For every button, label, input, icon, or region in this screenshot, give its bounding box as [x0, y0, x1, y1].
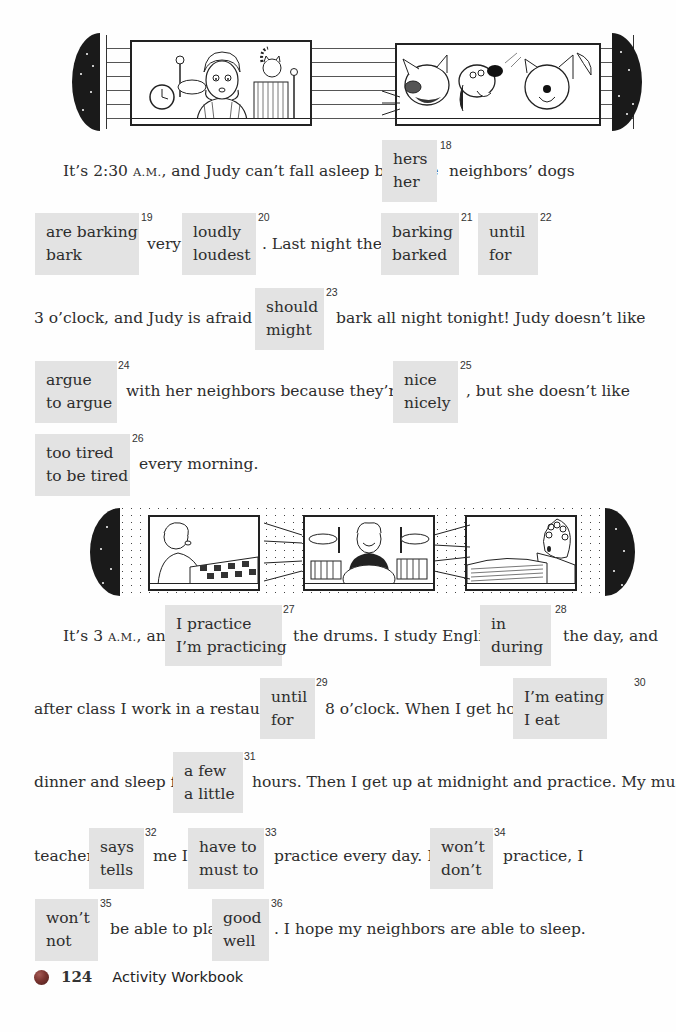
- choice-19-option-2[interactable]: bark: [46, 244, 139, 267]
- choice-36-option-1[interactable]: good: [223, 907, 269, 930]
- choice-25[interactable]: nice nicely: [393, 361, 458, 423]
- choice-35[interactable]: won’t not: [35, 899, 98, 961]
- choice-32-option-1[interactable]: says: [100, 836, 144, 859]
- choice-35-option-1[interactable]: won’t: [46, 907, 98, 930]
- item-number-19: 19: [141, 211, 153, 223]
- choice-24-option-1[interactable]: argue: [46, 369, 117, 392]
- p2-line2-middle: 8 o’clock. When I get home,: [325, 700, 544, 718]
- p2-line1-middle: the drums. I study English: [293, 627, 501, 645]
- item-number-23: 23: [326, 286, 338, 298]
- item-number-20: 20: [258, 211, 270, 223]
- item-number-29: 29: [316, 676, 328, 688]
- choice-19-option-1[interactable]: are barking: [46, 221, 139, 244]
- illustration-top: [72, 33, 642, 131]
- choice-26-option-2[interactable]: to be tired: [46, 465, 130, 488]
- choice-27-option-1[interactable]: I practice: [176, 613, 282, 636]
- night-sky-left-2: [90, 508, 120, 596]
- choice-19[interactable]: are barking bark: [35, 213, 139, 275]
- item-number-30: 30: [634, 676, 646, 688]
- choice-28-option-2[interactable]: during: [491, 636, 551, 659]
- choice-30-option-1[interactable]: I’m eating: [524, 686, 607, 709]
- choice-25-option-1[interactable]: nice: [404, 369, 458, 392]
- p2-line5-after: . I hope my neighbors are able to sleep.: [274, 920, 586, 938]
- item-number-31: 31: [244, 750, 256, 762]
- choice-26[interactable]: too tired to be tired: [35, 434, 130, 496]
- choice-34[interactable]: won’t don’t: [430, 828, 493, 889]
- choice-24[interactable]: argue to argue: [35, 361, 117, 423]
- p2-line4-after: practice, I: [503, 847, 583, 865]
- choice-26-option-1[interactable]: too tired: [46, 442, 130, 465]
- choice-24-option-2[interactable]: to argue: [46, 392, 117, 415]
- choice-23[interactable]: should might: [255, 288, 324, 350]
- item-number-22: 22: [540, 211, 552, 223]
- item-number-27: 27: [283, 603, 295, 615]
- choice-20-option-1[interactable]: loudly: [193, 221, 256, 244]
- choice-33-option-1[interactable]: have to: [199, 836, 264, 859]
- choice-31[interactable]: a few a little: [173, 752, 243, 813]
- illustration-middle: [90, 503, 635, 598]
- choice-31-option-1[interactable]: a few: [184, 760, 243, 783]
- choice-25-option-2[interactable]: nicely: [404, 392, 458, 415]
- page-footer: 124 Activity Workbook: [34, 966, 243, 988]
- item-number-36: 36: [271, 897, 283, 909]
- choice-30-option-2[interactable]: I eat: [524, 709, 607, 732]
- p1-line1-after: neighbors’ dogs: [449, 162, 575, 180]
- choice-28[interactable]: in during: [480, 605, 551, 666]
- page-number: 124: [61, 968, 92, 986]
- sleeping-neighbor-window: [465, 515, 577, 591]
- choice-21-option-1[interactable]: barking: [392, 221, 459, 244]
- night-sky-right: [612, 33, 642, 131]
- item-number-26: 26: [132, 432, 144, 444]
- choice-27[interactable]: I practice I’m practicing: [165, 605, 282, 666]
- p1-line2-last-night: . Last night they: [262, 235, 391, 253]
- p2-line5-middle: be able to play: [110, 920, 226, 938]
- p2-line4-before: teacher: [34, 847, 94, 865]
- judy-window: [130, 40, 312, 126]
- choice-23-option-2[interactable]: might: [266, 319, 324, 342]
- item-number-32: 32: [145, 826, 157, 838]
- choice-29[interactable]: until for: [260, 678, 315, 739]
- choice-22-option-2[interactable]: for: [489, 244, 538, 267]
- choice-32[interactable]: says tells: [89, 828, 144, 889]
- choice-36[interactable]: good well: [212, 899, 269, 961]
- choice-34-option-1[interactable]: won’t: [441, 836, 493, 859]
- item-number-28: 28: [555, 603, 567, 615]
- p2-line4-middle1: me I: [153, 847, 188, 865]
- choice-30[interactable]: I’m eating I eat: [513, 678, 607, 739]
- choice-21[interactable]: barking barked: [381, 213, 459, 275]
- book-title: Activity Workbook: [112, 969, 243, 985]
- choice-27-option-2[interactable]: I’m practicing: [176, 636, 282, 659]
- choice-29-option-1[interactable]: until: [271, 686, 315, 709]
- choice-34-option-2[interactable]: don’t: [441, 859, 493, 882]
- choice-23-option-1[interactable]: should: [266, 296, 324, 319]
- choice-33-option-2[interactable]: must to: [199, 859, 264, 882]
- choice-35-option-2[interactable]: not: [46, 930, 98, 953]
- choice-32-option-2[interactable]: tells: [100, 859, 144, 882]
- choice-20[interactable]: loudly loudest: [182, 213, 256, 275]
- p1-line2-very: very: [147, 235, 181, 253]
- item-number-18: 18: [440, 139, 452, 151]
- night-sky-right-2: [605, 508, 635, 596]
- choice-28-option-1[interactable]: in: [491, 613, 551, 636]
- choice-22-option-1[interactable]: until: [489, 221, 538, 244]
- p1-line5-after: every morning.: [139, 455, 258, 473]
- p2-line1-before: It’s 3 A.M., and: [63, 627, 176, 646]
- awake-neighbor-window: [148, 515, 260, 591]
- choice-36-option-2[interactable]: well: [223, 930, 269, 953]
- choice-33[interactable]: have to must to: [188, 828, 264, 889]
- choice-18-option-1[interactable]: hers: [393, 148, 437, 171]
- choice-22[interactable]: until for: [478, 213, 538, 275]
- choice-21-option-2[interactable]: barked: [392, 244, 459, 267]
- choice-20-option-2[interactable]: loudest: [193, 244, 256, 267]
- dogs-window: [395, 43, 601, 126]
- choice-18-option-2[interactable]: her: [393, 171, 437, 194]
- item-number-21: 21: [461, 211, 473, 223]
- item-number-34: 34: [494, 826, 506, 838]
- choice-18[interactable]: hers her: [382, 140, 437, 202]
- choice-31-option-2[interactable]: a little: [184, 783, 243, 806]
- choice-29-option-2[interactable]: for: [271, 709, 315, 732]
- bark-lines: [382, 83, 402, 123]
- p1-line3-before: 3 o’clock, and Judy is afraid they: [34, 309, 291, 327]
- p2-line4-middle2: practice every day. If I: [274, 847, 450, 865]
- item-number-35: 35: [100, 897, 112, 909]
